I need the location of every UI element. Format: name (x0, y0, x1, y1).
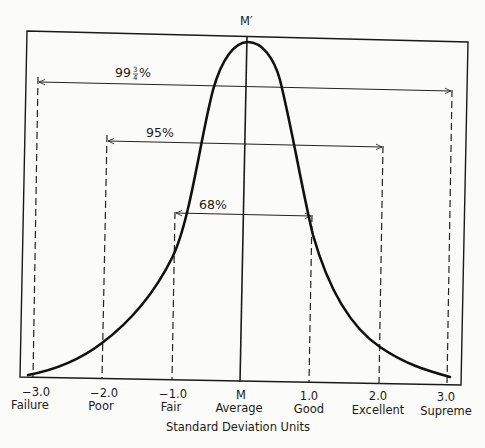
tick-category: Supreme (420, 404, 472, 418)
dash-plus3 (447, 90, 452, 384)
mean-line (240, 36, 247, 382)
tick-category: Good (294, 402, 324, 416)
label-99-frac-num: 3 (133, 66, 137, 74)
x-axis-title: Standard Deviation Units (166, 420, 310, 434)
tick-value: M (236, 388, 246, 402)
dash-plus1 (309, 215, 312, 382)
bell-curve (28, 42, 450, 377)
tick-value: −1.0 (159, 387, 187, 401)
tick-category: Average (215, 401, 262, 415)
normal-distribution-chart: 99 3 4 % 95% 68% M′ −3.0 Failure −2.0 Po… (0, 0, 485, 448)
dash-minus1 (172, 212, 175, 380)
arrow-99 (39, 82, 451, 91)
tick-value: 2.0 (369, 389, 387, 403)
dash-minus3 (33, 77, 38, 378)
label-99-percent-sym: % (139, 65, 151, 80)
tick-category: Poor (88, 399, 114, 413)
tick-value: 1.0 (300, 389, 318, 403)
label-95-percent: 95% (146, 125, 174, 140)
label-99-percent: 99 (115, 65, 131, 80)
label-68-percent: 68% (199, 197, 227, 212)
tick-value: −3.0 (22, 385, 50, 399)
peak-label: M′ (240, 14, 253, 28)
label-99-frac-den: 4 (133, 74, 138, 82)
tick-value: −2.0 (90, 386, 118, 400)
tick-value: 3.0 (437, 390, 455, 404)
x-tick-labels: −3.0 Failure −2.0 Poor −1.0 Fair M Avera… (11, 385, 472, 418)
tick-category: Failure (11, 398, 49, 412)
tick-category: Excellent (352, 403, 405, 417)
tick-category: Fair (161, 400, 182, 414)
